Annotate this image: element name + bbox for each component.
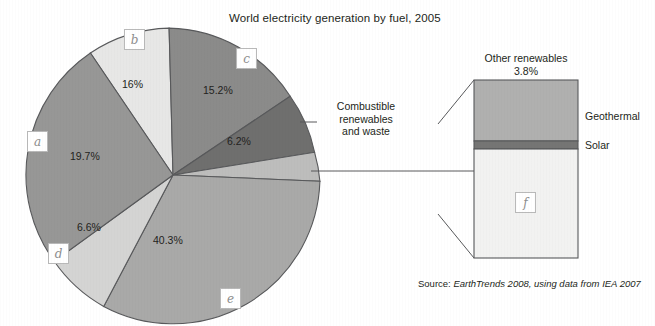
leader-line-panel-lower: [438, 214, 474, 258]
pie-key-b[interactable]: b: [124, 29, 145, 50]
pie-label-b-percent: 16%: [122, 78, 143, 90]
pie-key-d[interactable]: d: [48, 243, 69, 264]
callout-combustible-line1: Combustible: [318, 100, 414, 113]
panel-title: Other renewables 3.8%: [462, 52, 590, 77]
pie-label-c-percent: 15.2%: [203, 84, 233, 96]
panel-title-line2: 3.8%: [462, 65, 590, 78]
panel-title-line1: Other renewables: [462, 52, 590, 65]
pie-label-d-percent: 6.6%: [77, 221, 101, 233]
source-citation: EarthTrends 2008, using data from IEA 20…: [453, 278, 640, 289]
source-prefix: Source:: [418, 278, 453, 289]
pie-label-a-percent: 19.7%: [70, 150, 100, 162]
panel-label-solar: Solar: [585, 139, 610, 151]
panel-segment-solar[interactable]: [474, 141, 578, 149]
leader-line-panel-upper: [438, 80, 474, 124]
panel-label-geothermal: Geothermal: [585, 110, 640, 122]
pie-label-e-percent: 40.3%: [153, 234, 183, 246]
panel-segment-geothermal[interactable]: [474, 80, 578, 141]
pie-label-combustible-percent: 6.2%: [227, 135, 251, 147]
pie-key-c[interactable]: c: [236, 48, 257, 69]
callout-combustible-renewables: Combustible renewables and waste: [318, 100, 414, 138]
callout-combustible-line3: and waste: [318, 125, 414, 138]
pie-key-e[interactable]: e: [220, 288, 241, 309]
pie-key-a[interactable]: a: [27, 131, 48, 152]
source-note: Source: EarthTrends 2008, using data fro…: [418, 278, 641, 289]
panel-key-f[interactable]: f: [515, 192, 536, 213]
callout-combustible-line2: renewables: [318, 113, 414, 126]
chart-canvas: World electricity generation by fuel, 20…: [0, 0, 655, 326]
